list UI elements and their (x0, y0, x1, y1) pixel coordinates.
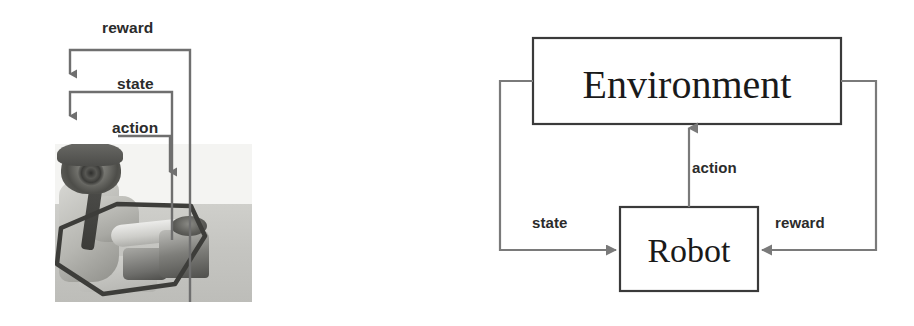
edge-label-state: state (532, 215, 568, 230)
left-label-state: state (117, 76, 154, 92)
edge-label-action: action (692, 160, 737, 175)
state-arrow-path (70, 92, 172, 240)
left-label-reward: reward (102, 20, 153, 36)
robot-node-label: Robot (647, 234, 730, 268)
right-panel: Environment Robot action state reward (470, 0, 914, 326)
left-label-action: action (112, 120, 158, 136)
edge-label-reward: reward (775, 215, 825, 230)
action-arrow-path (118, 136, 170, 172)
left-panel-annotation-arrows (0, 0, 470, 326)
figure-canvas: reward state action (0, 0, 914, 326)
left-panel: reward state action (0, 0, 470, 326)
environment-node-label: Environment (583, 65, 792, 105)
